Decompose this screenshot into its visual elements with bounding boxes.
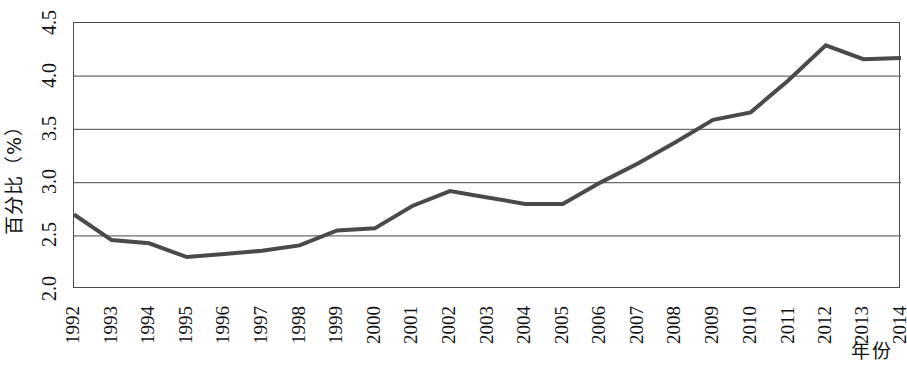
x-axis-tick-label-text: 1996: [212, 306, 234, 344]
x-axis-tick-label-text: 2007: [626, 306, 648, 344]
y-axis-tick-label-text: 3.5: [38, 116, 61, 141]
x-axis-tick-label: 2008: [662, 292, 686, 348]
plot-area: [73, 22, 900, 288]
x-axis-tick-label-text: 1995: [175, 306, 197, 344]
x-axis-tick-label-text: 2012: [814, 306, 836, 344]
x-axis-tick-label-text: 2008: [663, 306, 685, 344]
y-axis-title-text: 百分比（%）: [0, 115, 27, 234]
y-axis-tick-label-text: 2.5: [38, 222, 61, 247]
gridlines: [74, 76, 901, 236]
x-axis-tick-label-text: 2011: [776, 306, 798, 343]
x-axis-tick-label-text: 2004: [513, 306, 535, 344]
x-axis-tick-label: 2000: [362, 292, 386, 348]
x-axis-tick-label-text: 1999: [325, 306, 347, 344]
data-series-line: [74, 45, 901, 257]
x-axis-tick-label: 1992: [61, 292, 85, 348]
x-axis-title: 年份: [851, 336, 893, 363]
plot-svg: [74, 23, 901, 289]
y-axis-tick-label-text: 3.0: [38, 169, 61, 194]
x-axis-tick-label: 2003: [475, 292, 499, 348]
x-axis-tick-label-text: 2005: [551, 306, 573, 344]
y-axis-tick-label-text: 4.0: [38, 63, 61, 88]
x-axis-tick-label-text: 2002: [438, 306, 460, 344]
x-axis-tick-label: 2006: [587, 292, 611, 348]
x-axis-tick-label: 1993: [99, 292, 123, 348]
y-axis-tick-label: 4.0: [28, 64, 70, 86]
x-axis-tick-label: 1994: [136, 292, 160, 348]
x-axis-tick-label: 1996: [211, 292, 235, 348]
x-axis-tick-label-text: 2006: [588, 306, 610, 344]
x-axis-tick-label-text: 1994: [137, 306, 159, 344]
x-axis-tick-label-text: 2003: [476, 306, 498, 344]
x-axis-tick-label: 2007: [625, 292, 649, 348]
x-axis-tick-label: 1995: [174, 292, 198, 348]
y-axis-tick-label: 3.0: [28, 171, 70, 193]
x-axis-tick-label: 2005: [550, 292, 574, 348]
x-axis-tick-label: 1999: [324, 292, 348, 348]
x-axis-tick-label: 2009: [700, 292, 724, 348]
y-axis-tick-label: 3.5: [28, 117, 70, 139]
x-axis-tick-label: 1997: [249, 292, 273, 348]
chart-figure: 百分比（%） 2.02.53.03.54.04.5 19921993199419…: [0, 0, 907, 366]
x-axis-tick-label: 1998: [287, 292, 311, 348]
x-axis-tick-label: 2001: [399, 292, 423, 348]
x-axis-tick-label-text: 1998: [288, 306, 310, 344]
y-axis-tick-label: 2.5: [28, 224, 70, 246]
x-axis-tick-label-text: 1992: [62, 306, 84, 344]
x-axis-tick-label-text: 2009: [701, 306, 723, 344]
x-axis-tick-label-text: 1993: [100, 306, 122, 344]
x-axis-tick-label: 2002: [437, 292, 461, 348]
y-axis-tick-label: 4.5: [28, 11, 70, 33]
x-axis-tick-label: 2011: [775, 292, 799, 348]
y-axis-tick-label-text: 4.5: [38, 10, 61, 35]
x-axis-tick-label-text: 1997: [250, 306, 272, 344]
x-axis-tick-label: 2012: [813, 292, 837, 348]
y-axis-tick-label-text: 2.0: [38, 276, 61, 301]
x-axis-tick-label-text: 2010: [739, 306, 761, 344]
y-axis-title: 百分比（%）: [0, 60, 26, 290]
x-axis-tick-label-text: 2001: [400, 306, 422, 344]
x-axis-tick-label: 2004: [512, 292, 536, 348]
x-axis-tick-label-text: 2000: [363, 306, 385, 344]
x-axis-tick-label: 2010: [738, 292, 762, 348]
